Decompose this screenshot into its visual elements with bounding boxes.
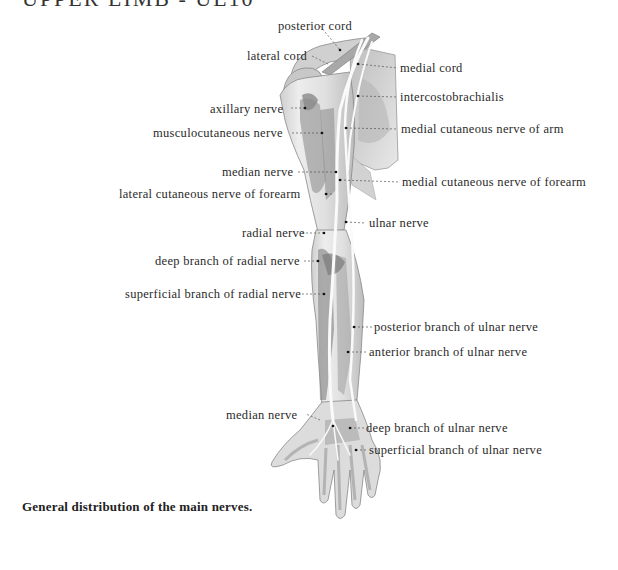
forearm [312,230,365,405]
figure-caption: General distribution of the main nerves. [22,499,252,515]
label-posterior-cord: posterior cord [278,19,352,33]
label-anterior-branch-ulnar-nerve: anterior branch of ulnar nerve [369,345,527,359]
label-deep-branch-ulnar-nerve: deep branch of ulnar nerve [366,421,508,435]
label-ulnar-nerve: ulnar nerve [369,216,429,230]
label-superficial-branch-ulnar-nerve: superficial branch of ulnar nerve [369,443,542,457]
label-median-nerve-arm: median nerve [222,165,293,179]
label-lateral-cutaneous-nerve-forearm: lateral cutaneous nerve of forearm [119,187,301,201]
label-superficial-branch-radial-nerve: superficial branch of radial nerve [125,287,301,301]
label-posterior-branch-ulnar-nerve: posterior branch of ulnar nerve [374,320,538,334]
label-medial-cutaneous-nerve-arm: medial cutaneous nerve of arm [401,122,564,136]
label-median-nerve-hand: median nerve [226,408,297,422]
label-intercostobrachialis: intercostobrachialis [400,90,504,104]
label-deep-branch-radial-nerve: deep branch of radial nerve [155,254,300,268]
label-medial-cord: medial cord [400,61,463,75]
label-radial-nerve: radial nerve [242,226,305,240]
label-musculocutaneous-nerve: musculocutaneous nerve [153,126,283,140]
label-axillary-nerve: axillary nerve [210,102,283,116]
label-lateral-cord: lateral cord [247,49,307,63]
arm-nerve-illustration [0,0,618,570]
label-medial-cutaneous-nerve-forearm: medial cutaneous nerve of forearm [402,175,586,189]
